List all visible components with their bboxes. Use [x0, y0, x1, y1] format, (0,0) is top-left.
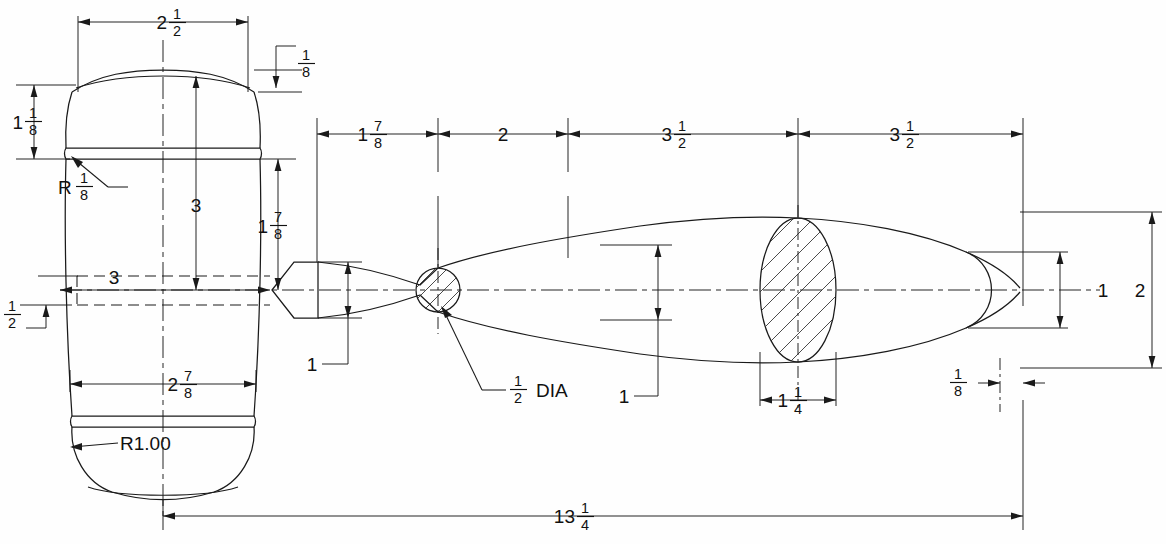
arrowhead-left: [317, 131, 329, 138]
arrowhead-up: [345, 262, 352, 274]
dim-text-numerator: 1: [954, 366, 962, 382]
arrowhead-left: [798, 131, 810, 138]
arrowhead-right: [426, 131, 438, 138]
dim-text-denominator: 8: [274, 226, 282, 242]
dim-text-whole: 3: [889, 124, 900, 145]
dim-text-denominator: 2: [514, 390, 522, 406]
handle-waist-diameter-callout: 1 2 DIA: [441, 306, 568, 406]
dim-text-denominator: 2: [173, 23, 181, 39]
arrowhead-right: [824, 397, 836, 404]
arrowhead-down: [193, 278, 200, 290]
handle-upper-profile-swell: [438, 217, 1020, 288]
handle-segment-2-dimension: 2: [438, 124, 568, 145]
arrowhead-leader: [71, 156, 83, 168]
dim-text: 1: [1098, 280, 1109, 301]
head-bore-offset-dimension: 1 2: [4, 298, 72, 331]
handle-lower-profile-neck: [318, 295, 438, 318]
arrowhead-left: [438, 131, 450, 138]
dim-text-denominator: 4: [794, 401, 802, 417]
dim-text-numerator: 1: [80, 170, 88, 186]
arrowhead-up: [31, 85, 38, 97]
dim-text-denominator: 8: [184, 385, 192, 401]
arrowhead-left: [760, 397, 772, 404]
radius-text: R1.00: [120, 433, 171, 454]
overall-length-dimension: 13 1 4: [163, 400, 1023, 533]
handle-segment-1-dimension: 1 7 8: [317, 118, 438, 151]
handle-profile-view: [60, 186, 1100, 408]
arrowhead-leader: [70, 443, 82, 451]
dim-text-whole: 2: [156, 12, 167, 33]
arrowhead-right: [258, 287, 270, 294]
dim-text-numerator: 1: [794, 384, 802, 400]
arrowhead-down: [1057, 316, 1064, 328]
arrowhead-left: [568, 131, 580, 138]
dim-text-whole: 1: [777, 390, 788, 411]
arrowhead-right: [244, 381, 256, 388]
leader-line: [443, 309, 482, 390]
dim-text-denominator: 8: [29, 122, 37, 138]
dim-text-numerator: 1: [678, 118, 686, 134]
dim-text: 3: [191, 195, 202, 216]
drawing-sheet: 2 1 2 1 8 1 1 8: [0, 0, 1166, 544]
head-bore-width-dimension: 3: [38, 267, 270, 293]
dim-text-denominator: 8: [374, 135, 382, 151]
arrowhead-left: [988, 380, 1000, 387]
head-top-chamfer-dimension: 1 8: [254, 46, 315, 92]
head-groove-radius-callout: R 1 8: [58, 156, 128, 203]
dim-text-numerator: 1: [29, 105, 37, 121]
dim-text-whole: 1: [357, 124, 368, 145]
arrowhead-right: [786, 131, 798, 138]
arrowhead-up: [1057, 252, 1064, 264]
dim-text-whole: 13: [554, 506, 575, 527]
dim-text-numerator: 1: [581, 500, 589, 516]
dim-text: 3: [109, 267, 120, 288]
head-upper-left-side: [66, 92, 72, 148]
dim-text: 1: [307, 354, 318, 375]
dim-text-denominator: 8: [302, 64, 310, 80]
dim-text-denominator: 2: [8, 315, 16, 331]
head-upper-right-side: [254, 92, 260, 148]
handle-chain-extension-lines: [317, 118, 1023, 306]
arrowhead-right: [1011, 513, 1023, 520]
dim-text-denominator: 4: [581, 517, 589, 533]
arrowhead-right: [556, 131, 568, 138]
arrowhead-down: [1149, 356, 1156, 368]
dim-text-denominator: 8: [954, 383, 962, 399]
dim-text-numerator: 7: [184, 368, 192, 384]
dim-text: 1: [619, 386, 630, 407]
dim-text: 2: [1135, 280, 1146, 301]
dim-text-denominator: 8: [80, 187, 88, 203]
handle-tip-offset-dimension: 1 8: [950, 358, 1045, 412]
dim-text-numerator: 1: [302, 47, 310, 63]
dim-text-numerator: 7: [374, 118, 382, 134]
head-center-height-dimension: 3: [191, 76, 202, 290]
arrowhead-down: [273, 76, 280, 88]
handle-segment-4-dimension: 3 1 2: [798, 118, 1023, 151]
dim-text-numerator: 1: [8, 298, 16, 314]
radius-prefix: R: [58, 177, 72, 198]
arrowhead-right: [1023, 380, 1035, 387]
arrowhead-down: [655, 308, 662, 320]
arrowhead-left: [78, 19, 90, 26]
arrowhead-down: [275, 278, 282, 290]
arrowhead-left: [70, 381, 82, 388]
arrowhead-up: [275, 159, 282, 171]
dim-text: 2: [498, 124, 509, 145]
handle-lower-profile-swell: [438, 292, 1020, 363]
dim-text-numerator: 1: [906, 118, 914, 134]
dim-text-whole: 2: [167, 374, 178, 395]
arrowhead-right: [1011, 131, 1023, 138]
arrowhead-down: [31, 147, 38, 159]
dim-text-denominator: 2: [906, 135, 914, 151]
arrowhead-left: [163, 513, 175, 520]
dim-text-whole: 1: [257, 216, 268, 237]
dim-text-numerator: 1: [514, 373, 522, 389]
arrowhead-up: [655, 245, 662, 257]
head-lower-height-dimension: 1 7 8: [257, 159, 296, 290]
grip-section-hatching: [740, 186, 858, 382]
handle-mid-height-dimension: 1: [600, 245, 672, 407]
dim-text-numerator: 7: [274, 209, 282, 225]
handle-grip-section: [740, 186, 858, 408]
head-bottom-radius-callout: R1.00: [70, 433, 171, 454]
dia-suffix-label: DIA: [536, 380, 568, 401]
